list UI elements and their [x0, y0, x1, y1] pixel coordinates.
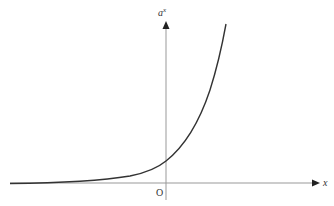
x-axis-arrow-icon — [312, 180, 320, 187]
origin-label: O — [156, 187, 163, 198]
y-axis-label: ax — [158, 6, 167, 18]
y-axis-arrow-icon — [163, 21, 170, 29]
exponential-curve — [10, 24, 226, 184]
exponential-chart: ax x O — [0, 0, 334, 206]
x-axis-label: x — [322, 177, 328, 188]
